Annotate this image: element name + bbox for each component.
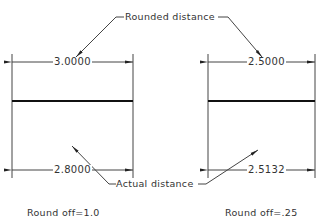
right-roundoff-caption: Round off=.25 [225,208,298,218]
right-rounded-value: 2.5000 [247,57,286,67]
leader-rounded-left [76,17,116,57]
rounded-distance-callout: Rounded distance [125,12,215,22]
leader-rounded-right [228,17,262,57]
right-actual-value: 2.5132 [247,165,286,175]
left-actual-value: 2.8000 [53,165,92,175]
left-rounded-value: 3.0000 [53,57,92,67]
left-roundoff-caption: Round off=1.0 [27,208,100,218]
actual-distance-callout: Actual distance [116,179,194,189]
